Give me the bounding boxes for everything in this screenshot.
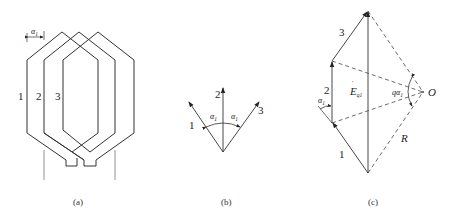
- phasor-c-label-1: 1: [339, 148, 345, 160]
- caption-b: (b): [221, 197, 232, 207]
- central-angle-arc: [408, 77, 412, 106]
- radius-upper: [332, 61, 423, 92]
- radius-label-R: R: [400, 132, 408, 144]
- radius-bottom: [368, 92, 423, 173]
- center-point: [422, 91, 424, 93]
- panel-b-phasors: [189, 88, 259, 152]
- caption-a: (a): [73, 197, 83, 207]
- phasor-c-label-3: 3: [339, 26, 345, 38]
- phasor-label-3: 3: [258, 104, 264, 116]
- caption-c: (c): [368, 197, 378, 207]
- panel-c-polygon: [318, 11, 423, 173]
- phasor-label-1: 1: [189, 119, 195, 131]
- alpha-label-right: α1: [231, 112, 238, 122]
- center-label-O: O: [428, 86, 436, 98]
- panel-a-coils: [27, 31, 134, 180]
- panel-a-alpha-label: α1: [31, 27, 38, 37]
- alpha-label-left: α1: [210, 112, 217, 122]
- coil-label-2: 2: [36, 90, 42, 102]
- slot-angle-arc: [320, 106, 331, 109]
- slot-angle-label: α1: [318, 96, 325, 106]
- figure-canvas: α1 1 2 3 (a) 2 1 3 α1 α1 (b) 3 2: [0, 0, 450, 224]
- coil-end-right: [84, 160, 96, 166]
- phasor-c-3: [332, 12, 367, 61]
- coil-label-3: 3: [55, 90, 61, 102]
- phasor-label-2: 2: [215, 88, 221, 100]
- coil-label-1: 1: [18, 90, 24, 102]
- resultant-dot: ·: [352, 78, 354, 86]
- coil-end-left: [66, 158, 77, 166]
- phasor-c-label-2: 2: [324, 84, 330, 96]
- resultant-label: Eq1: [349, 85, 362, 98]
- phasor-3: [223, 102, 259, 152]
- radius-lower: [332, 92, 423, 123]
- radius-top: [368, 11, 423, 92]
- central-angle-label: qα1: [392, 88, 403, 98]
